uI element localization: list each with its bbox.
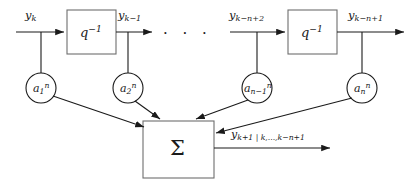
delay-block-2-label: q−1 — [301, 25, 323, 39]
summation-symbol: Σ — [170, 138, 185, 159]
coef-to-sum-3 — [196, 100, 248, 119]
signal-label-yk-n1: yk−n+1 — [348, 10, 383, 23]
coefficient-label-4: ann — [354, 82, 370, 96]
coefficient-label-1: a1n — [33, 82, 49, 96]
signal-label-yk-n2: yk−n+2 — [229, 10, 264, 23]
signal-label-yk-1: yk−1 — [118, 10, 141, 23]
coefficient-label-3: an−1n — [244, 82, 272, 96]
ellipsis-dots: · · · — [163, 24, 212, 42]
signal-label-yk: yk — [25, 10, 36, 23]
output-label: yk+1 | k,...,k−n+1 — [231, 129, 305, 142]
coef-to-sum-2 — [135, 101, 160, 119]
coefficient-label-2: a2n — [120, 82, 136, 96]
figure-canvas: yk yk−1 yk−n+2 yk−n+1 · · · q−1 q−1 a1n … — [0, 0, 414, 191]
delay-block-1-label: q−1 — [80, 25, 102, 39]
